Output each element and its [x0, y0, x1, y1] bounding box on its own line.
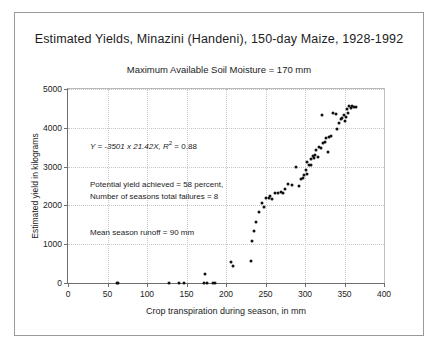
annotation-mean-runoff: Mean season runoff = 90 mm [90, 227, 194, 239]
x-tick-mark [305, 283, 306, 287]
scatter-point [336, 127, 339, 130]
scatter-point [262, 205, 265, 208]
scatter-point [309, 164, 312, 167]
chart-title: Estimated Yields, Minazini (Handeni), 15… [0, 32, 438, 46]
scatter-point [334, 112, 337, 115]
scatter-point [168, 282, 171, 285]
scatter-point [294, 166, 297, 169]
gridline-vertical [345, 89, 346, 283]
scatter-point [305, 172, 308, 175]
gridline-horizontal [68, 167, 384, 168]
annotation-potential-yield: Potential yield achieved = 58 percent, N… [90, 179, 223, 202]
y-tick-label: 4000 [43, 123, 62, 133]
scatter-point [213, 282, 216, 285]
scatter-point [229, 261, 232, 264]
y-tick-label: 0 [57, 278, 62, 288]
y-tick-label: 2000 [43, 200, 62, 210]
y-tick-mark [64, 128, 68, 129]
scatter-point [347, 112, 350, 115]
scatter-point [297, 185, 300, 188]
x-tick-label: 350 [337, 289, 351, 299]
scatter-point [232, 265, 235, 268]
gridline-horizontal [68, 205, 384, 206]
scatter-point [255, 221, 258, 224]
annotation-equation-value: = 0.88 [172, 142, 197, 151]
gridline-vertical [384, 89, 385, 283]
scatter-point [204, 273, 207, 276]
annotation-equation-text: Y = -3501 x 21.42X, [90, 142, 163, 151]
scatter-point [330, 134, 333, 137]
y-tick-mark [64, 89, 68, 90]
annotation-potential-line-1: Potential yield achieved = 58 percent, [90, 179, 223, 191]
y-tick-label: 5000 [43, 84, 62, 94]
scatter-point [326, 150, 329, 153]
x-tick-label: 200 [219, 289, 233, 299]
gridline-horizontal [68, 89, 384, 90]
gridline-horizontal [68, 244, 384, 245]
gridline-vertical [305, 89, 306, 283]
y-axis-title: Estimated yield in kilograms [28, 88, 42, 284]
plot-area: 010002000300040005000 050100150200250300… [67, 88, 385, 284]
y-tick-mark [64, 167, 68, 168]
x-tick-label: 300 [298, 289, 312, 299]
x-tick-mark [187, 283, 188, 287]
scatter-point [320, 113, 323, 116]
gridline-vertical [226, 89, 227, 283]
x-tick-mark [345, 283, 346, 287]
scatter-point [337, 122, 340, 125]
y-tick-mark [64, 244, 68, 245]
scatter-point [323, 141, 326, 144]
scatter-point [315, 149, 318, 152]
scatter-point [183, 282, 186, 285]
x-tick-mark [68, 283, 69, 287]
x-tick-label: 400 [377, 289, 391, 299]
x-tick-label: 0 [66, 289, 71, 299]
scatter-point [270, 198, 273, 201]
scatter-point [354, 105, 357, 108]
x-tick-mark [108, 283, 109, 287]
y-tick-label: 1000 [43, 239, 62, 249]
scatter-point [206, 282, 209, 285]
scatter-point [284, 187, 287, 190]
y-axis-title-label: Estimated yield in kilograms [30, 133, 40, 238]
annotation-regression-equation: Y = -3501 x 21.42X, R2 = 0.88 [90, 139, 197, 152]
scatter-point [250, 260, 253, 263]
scatter-point [253, 230, 256, 233]
scatter-point [178, 282, 181, 285]
scatter-point [116, 282, 119, 285]
x-tick-label: 250 [258, 289, 272, 299]
chart-subtitle: Maximum Available Soil Moisture = 170 mm [0, 64, 438, 75]
x-tick-mark [266, 283, 267, 287]
y-tick-label: 3000 [43, 162, 62, 172]
x-tick-mark [147, 283, 148, 287]
x-tick-label: 50 [103, 289, 112, 299]
annotation-potential-line-2: Number of seasons total failures = 8 [90, 191, 223, 203]
x-tick-label: 150 [179, 289, 193, 299]
gridline-vertical [266, 89, 267, 283]
x-tick-mark [384, 283, 385, 287]
scatter-point [281, 191, 284, 194]
scatter-point [319, 147, 322, 150]
scatter-point [345, 115, 348, 118]
y-tick-mark [64, 205, 68, 206]
scatter-point [316, 155, 319, 158]
scatter-point [343, 119, 346, 122]
scatter-point [290, 184, 293, 187]
figure-root: Estimated Yields, Minazini (Handeni), 15… [0, 0, 438, 352]
scatter-point [312, 157, 315, 160]
scatter-point [258, 210, 261, 213]
x-axis-title: Crop transpiration during season, in mm [67, 306, 385, 316]
x-tick-mark [226, 283, 227, 287]
scatter-point [251, 239, 254, 242]
scatter-point [301, 177, 304, 180]
x-tick-label: 100 [140, 289, 154, 299]
